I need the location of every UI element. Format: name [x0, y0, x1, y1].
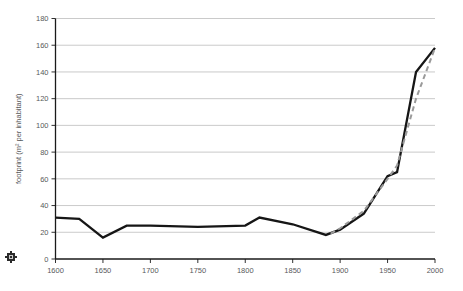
square-logo-glyph [5, 251, 17, 263]
line-chart: 0204060801001201401601801600165017001750… [0, 0, 463, 291]
y-tick-label-0: 0 [44, 255, 48, 264]
series-group [56, 48, 436, 238]
x-tick-label-1650: 1650 [95, 266, 112, 275]
y-tick-label-140: 140 [36, 68, 49, 77]
x-tick-label-2000: 2000 [427, 266, 444, 275]
gridlines-group [56, 19, 436, 233]
x-tick-label-1850: 1850 [284, 266, 301, 275]
y-tick-label-40: 40 [40, 201, 48, 210]
x-tick-label-1800: 1800 [237, 266, 254, 275]
y-tick-label-100: 100 [36, 121, 49, 130]
y-tick-label-20: 20 [40, 228, 48, 237]
x-tick-label-1750: 1750 [189, 266, 206, 275]
x-tick-label-1700: 1700 [142, 266, 159, 275]
labels-group: 0204060801001201401601801600165017001750… [14, 14, 444, 275]
y-tick-label-180: 180 [36, 14, 49, 23]
y-tick-label-80: 80 [40, 148, 48, 157]
chart-container: 0204060801001201401601801600165017001750… [0, 0, 463, 291]
y-tick-label-60: 60 [40, 175, 48, 184]
series-line-footprint-solid [56, 48, 436, 238]
y-tick-label-120: 120 [36, 94, 49, 103]
x-tick-label-1600: 1600 [47, 266, 64, 275]
x-tick-label-1900: 1900 [332, 266, 349, 275]
y-tick-label-160: 160 [36, 41, 49, 50]
y-axis-title: footprint (m² per inhabitant) [14, 93, 23, 184]
square-logo-icon [5, 249, 17, 261]
x-tick-label-1950: 1950 [379, 266, 396, 275]
